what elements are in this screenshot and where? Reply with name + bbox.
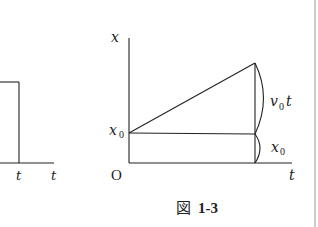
- caption-prefix: 図: [176, 200, 191, 216]
- x0-level-line: [129, 133, 255, 134]
- left-figure: t t: [0, 82, 57, 183]
- figure-caption: 図 1-3: [176, 200, 218, 216]
- caption-number: 1-3: [198, 200, 218, 216]
- position-line: [129, 63, 255, 133]
- right-figure: x t O x 0 v 0 t x 0: [109, 29, 295, 183]
- svg-text:t: t: [286, 93, 292, 109]
- v0t-brace: [255, 63, 264, 134]
- x-axis-label: t: [289, 167, 295, 183]
- left-t-mark-label: t: [16, 168, 22, 183]
- svg-text:x: x: [271, 139, 279, 155]
- svg-text:0: 0: [119, 129, 124, 140]
- left-t-axis-label: t: [51, 168, 57, 183]
- svg-text:0: 0: [279, 101, 284, 112]
- origin-label: O: [111, 167, 122, 183]
- svg-text:0: 0: [280, 146, 285, 157]
- figure-canvas: t t x t O x 0 v 0 t x 0 図 1-3: [0, 0, 318, 227]
- svg-text:v: v: [270, 93, 278, 109]
- v0t-label: v 0 t: [270, 93, 292, 112]
- x0-brace: [255, 134, 260, 163]
- x0-tick-label: x 0: [109, 122, 124, 140]
- svg-text:x: x: [109, 122, 117, 138]
- x0-brace-label: x 0: [271, 139, 285, 157]
- y-axis-label: x: [111, 29, 119, 45]
